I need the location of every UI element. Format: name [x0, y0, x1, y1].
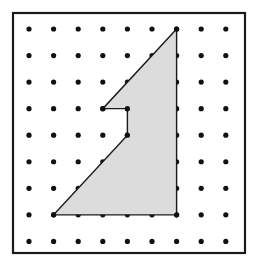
polygon-vertex-dot-apex-top — [174, 26, 179, 31]
grid-dot — [26, 186, 31, 191]
grid-dot — [199, 212, 204, 217]
grid-dot — [26, 133, 31, 138]
grid-dot — [199, 159, 204, 164]
grid-dot — [125, 53, 130, 58]
grid-dot — [26, 159, 31, 164]
polygon-vertex-dot-notch-inner-top — [125, 106, 130, 111]
grid-dot — [223, 239, 228, 244]
grid-dot — [76, 53, 81, 58]
grid-dot — [100, 53, 105, 58]
grid-dot — [76, 26, 81, 31]
grid-dot — [51, 106, 56, 111]
grid-dot — [76, 106, 81, 111]
grid-dot — [51, 239, 56, 244]
grid-dot — [100, 133, 105, 138]
polygon-vertex-dot-notch-inner-bottom — [125, 133, 130, 138]
grid-dot — [125, 26, 130, 31]
polygon-vertex-dot-bottom-right — [174, 212, 179, 217]
grid-dot — [26, 239, 31, 244]
grid-dot — [26, 53, 31, 58]
grid-dot — [51, 159, 56, 164]
geoboard-figure — [0, 0, 258, 269]
grid-dot — [76, 80, 81, 85]
grid-dot — [223, 186, 228, 191]
grid-dot — [76, 159, 81, 164]
grid-dot — [199, 80, 204, 85]
grid-dot — [223, 133, 228, 138]
grid-dot — [223, 53, 228, 58]
grid-dot — [100, 80, 105, 85]
grid-dot — [26, 106, 31, 111]
grid-dot — [26, 212, 31, 217]
grid-dot — [51, 53, 56, 58]
grid-dot — [149, 239, 154, 244]
grid-dot — [174, 239, 179, 244]
grid-dot — [26, 80, 31, 85]
grid-dot — [26, 26, 31, 31]
polygon-vertex-dot-notch-left — [100, 106, 105, 111]
grid-dot — [199, 133, 204, 138]
grid-dot — [76, 239, 81, 244]
grid-dot — [199, 53, 204, 58]
grid-dot — [76, 133, 81, 138]
grid-dot — [199, 26, 204, 31]
geoboard-canvas — [0, 0, 258, 269]
grid-dot — [223, 159, 228, 164]
grid-dot — [100, 26, 105, 31]
grid-dot — [199, 106, 204, 111]
grid-dot — [51, 133, 56, 138]
grid-dot — [149, 26, 154, 31]
grid-dot — [223, 106, 228, 111]
grid-dot — [51, 26, 56, 31]
grid-dot — [51, 80, 56, 85]
grid-dot — [125, 239, 130, 244]
grid-dot — [51, 186, 56, 191]
grid-dot — [223, 80, 228, 85]
grid-dot — [223, 212, 228, 217]
polygon-vertex-dot-bottom-left — [51, 212, 56, 217]
grid-dot — [100, 239, 105, 244]
grid-dot — [199, 239, 204, 244]
grid-dot — [199, 186, 204, 191]
grid-dot — [223, 26, 228, 31]
